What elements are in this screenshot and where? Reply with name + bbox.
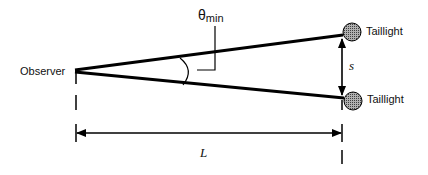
angle-symbol: θ bbox=[198, 7, 206, 23]
taillight-bottom-label: Taillight bbox=[367, 94, 404, 105]
angle-subscript: min bbox=[206, 12, 224, 24]
taillight-bottom-icon bbox=[344, 92, 362, 110]
taillight-top-label: Taillight bbox=[366, 26, 403, 37]
angle-label: θmin bbox=[198, 8, 224, 24]
taillight-top-icon bbox=[343, 23, 361, 41]
separation-label: s bbox=[349, 59, 354, 72]
distance-label: L bbox=[200, 146, 207, 159]
diagram-graphics bbox=[0, 0, 428, 175]
sight-line-top bbox=[75, 35, 343, 70]
observer-label: Observer bbox=[20, 66, 65, 77]
diagram-canvas: Observer Taillight Taillight s L θmin bbox=[0, 0, 428, 175]
sight-line-bottom bbox=[75, 72, 344, 98]
angle-leader-line bbox=[197, 26, 215, 70]
